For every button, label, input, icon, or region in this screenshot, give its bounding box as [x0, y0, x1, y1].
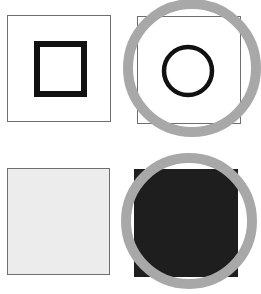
panel-circle-symbol [128, 4, 256, 132]
panel-light-swatch [8, 169, 110, 275]
dark-square-swatch [134, 169, 238, 277]
panel-dark-swatch [126, 158, 252, 284]
light-square-swatch [8, 169, 110, 275]
panel-square-symbol [8, 16, 111, 122]
panel-frame [138, 17, 241, 124]
symbol-diagram [0, 0, 261, 294]
panel-frame [8, 16, 111, 122]
